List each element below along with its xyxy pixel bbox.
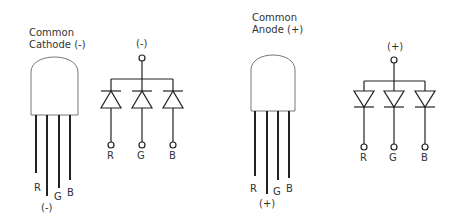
anode-schematic: (+) R G B [354, 41, 435, 163]
anode-output-g: G [389, 152, 397, 163]
anode-led-body [251, 55, 295, 111]
anode-pin-label-b: B [286, 183, 293, 194]
cathode-node-g-icon [139, 142, 145, 148]
anode-node-g-icon [391, 144, 397, 150]
anode-pin-label-r: R [250, 183, 257, 194]
cathode-led-body [31, 57, 78, 115]
cathode-pin-label-g: G [54, 191, 62, 202]
cathode-common-node-icon [139, 55, 145, 61]
anode-title-line2: Anode (+) [252, 24, 303, 35]
anode-diode-r-icon [354, 91, 374, 107]
anode-node-b-icon [422, 144, 428, 150]
anode-pin-label-g: G [273, 186, 281, 197]
cathode-common-terminal-label: (-) [136, 38, 148, 49]
anode-diode-b-icon [415, 91, 435, 107]
cathode-node-b-icon [170, 142, 176, 148]
diode-b-icon [163, 91, 183, 108]
cathode-schematic: (-) R G B [101, 38, 183, 161]
cathode-node-r-icon [108, 142, 114, 148]
cathode-output-g: G [137, 150, 145, 161]
diode-r-icon [101, 91, 121, 108]
cathode-title-line1: Common [29, 27, 74, 38]
cathode-output-r: R [107, 150, 114, 161]
cathode-title-line2: Cathode (-) [29, 39, 86, 50]
anode-common-terminal-label: (+) [387, 41, 403, 52]
anode-diode-g-icon [384, 91, 404, 107]
anode-pin-label-common: (+) [259, 198, 275, 209]
cathode-pin-label-common: (-) [41, 202, 53, 213]
common-cathode-section: Common Cathode (-) R (-) G B (-) R [29, 27, 183, 213]
diode-g-icon [132, 91, 152, 108]
anode-title-line1: Common [252, 12, 297, 23]
anode-common-node-icon [391, 57, 397, 63]
anode-output-r: R [360, 152, 367, 163]
cathode-output-b: B [169, 150, 176, 161]
anode-node-r-icon [361, 144, 367, 150]
anode-output-b: B [421, 152, 428, 163]
cathode-pin-label-r: R [34, 182, 41, 193]
rgb-led-diagram: Common Cathode (-) R (-) G B (-) R [0, 0, 459, 224]
common-anode-section: Common Anode (+) R (+) G B (+) R [250, 12, 435, 209]
cathode-pin-label-b: B [67, 187, 74, 198]
